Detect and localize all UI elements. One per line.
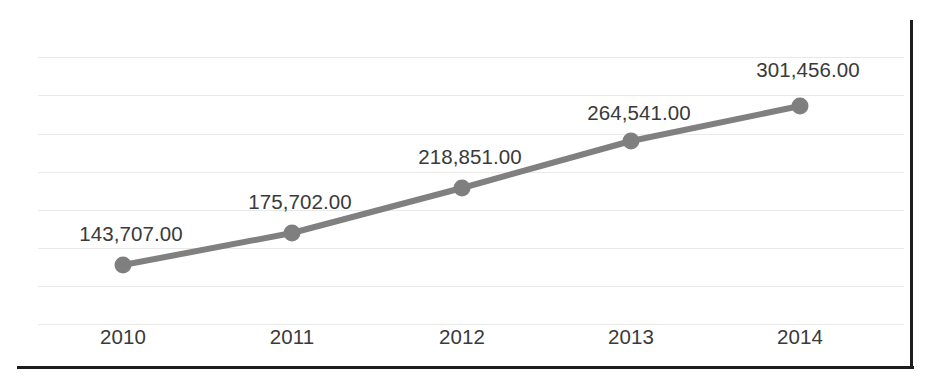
data-point-label: 143,707.00	[79, 222, 183, 246]
data-point-marker[interactable]	[454, 180, 471, 197]
data-point-marker[interactable]	[623, 133, 640, 150]
axis-right-border	[910, 20, 913, 368]
axis-bottom-border	[17, 366, 914, 369]
x-axis-tick-label: 2012	[439, 325, 485, 349]
gridline	[38, 210, 904, 211]
data-point-label: 218,851.00	[418, 145, 522, 169]
gridline	[38, 172, 904, 173]
gridline	[38, 286, 904, 287]
gridline	[38, 95, 904, 96]
line-chart: 143,707.00175,702.00218,851.00264,541.00…	[0, 0, 944, 387]
plot-area: 143,707.00175,702.00218,851.00264,541.00…	[0, 0, 944, 387]
data-point-marker[interactable]	[792, 98, 809, 115]
data-point-label: 175,702.00	[248, 190, 352, 214]
gridline	[38, 248, 904, 249]
data-point-label: 264,541.00	[587, 101, 691, 125]
gridline	[38, 134, 904, 135]
data-point-marker[interactable]	[115, 257, 132, 274]
x-axis-tick-label: 2010	[100, 325, 146, 349]
x-axis-tick-label: 2014	[777, 325, 823, 349]
series-polyline	[123, 106, 800, 265]
data-point-marker[interactable]	[284, 225, 301, 242]
data-point-label: 301,456.00	[756, 58, 860, 82]
x-axis-tick-label: 2013	[608, 325, 654, 349]
x-axis-tick-label: 2011	[270, 325, 314, 349]
